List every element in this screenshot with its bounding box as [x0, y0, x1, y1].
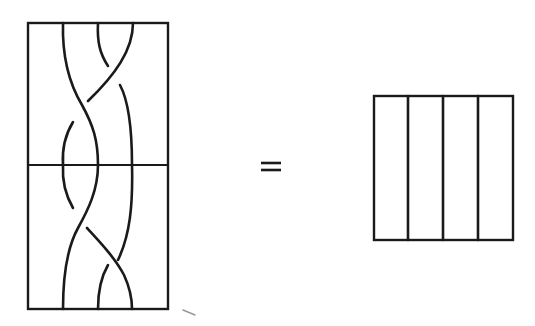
strand-a-top — [63, 23, 98, 165]
bottom-panel-strands — [63, 165, 132, 309]
top-panel-strands — [63, 23, 133, 165]
equals-sign — [261, 163, 281, 170]
strand-c-bottom-upper — [118, 165, 132, 260]
braid-identity-figure: = — [0, 0, 535, 326]
strand-a-bottom-upper — [63, 165, 73, 208]
strand-c-top-over — [88, 23, 133, 101]
strand-b-bottom-over — [63, 165, 98, 309]
strand-b-top-lower — [120, 85, 132, 165]
strand-e-bottom-lower — [98, 265, 108, 309]
strand-b-top-upper — [98, 23, 108, 66]
scan-artifact — [183, 310, 195, 315]
left-braid-diagram — [28, 23, 168, 309]
strand-c-top-lower — [63, 122, 73, 165]
right-identity-diagram — [374, 96, 513, 240]
